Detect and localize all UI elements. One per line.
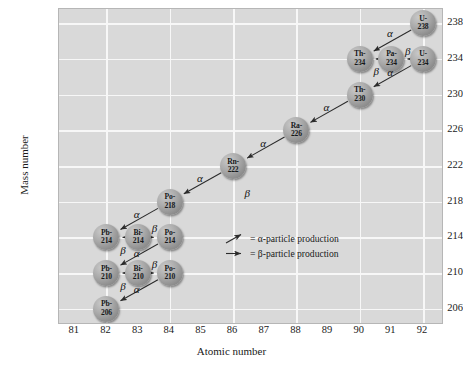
decay-label-alpha-ra-226: α — [260, 137, 266, 149]
nuclide-mass: 234 — [354, 59, 365, 68]
nuclide-mass: 214 — [101, 237, 112, 246]
nuclide-node-po-218[interactable]: Po-218 — [157, 189, 183, 215]
alpha-arrow-icon — [224, 232, 250, 245]
nuclide-mass: 230 — [354, 95, 365, 104]
y-tick-label: 226 — [411, 124, 463, 135]
legend-item-alpha: = α-particle production — [224, 231, 339, 246]
y-axis-title: Mass number — [18, 105, 30, 225]
decay-label-alpha-rn-222: α — [197, 172, 203, 184]
nuclide-node-th-230[interactable]: Th-230 — [347, 82, 373, 108]
nuclide-node-po-210[interactable]: Po-210 — [157, 260, 183, 286]
decay-label-beta-bi-210: β — [152, 258, 157, 270]
decay-label-beta-u-234: β — [405, 45, 410, 57]
nuclide-mass: 214 — [133, 237, 144, 246]
decay-label-beta-bi-210: β — [120, 280, 125, 292]
nuclide-node-rn-222[interactable]: Rn-222 — [220, 153, 246, 179]
legend-label-alpha: = α-particle production — [250, 233, 339, 244]
y-tick-label: 238 — [411, 17, 463, 28]
legend-label-beta: = β-particle production — [250, 248, 339, 259]
gridline-horizontal — [59, 95, 442, 97]
decay-label-alpha-th-230: α — [324, 101, 330, 113]
decay-label-alpha-po-210: α — [134, 283, 140, 295]
nuclide-node-pb-214[interactable]: Pb-214 — [93, 224, 119, 250]
legend: = α-particle production = β-particle pro… — [224, 231, 339, 261]
nuclide-mass: 214 — [164, 237, 175, 246]
nuclide-node-th-234[interactable]: Th-234 — [347, 46, 373, 72]
y-tick-label: 234 — [411, 53, 463, 64]
decay-label-alpha-u-234: α — [387, 66, 393, 78]
nuclide-mass: 210 — [101, 273, 112, 282]
y-tick-label: 230 — [411, 88, 463, 99]
nuclide-mass: 218 — [164, 202, 175, 211]
gridline-horizontal — [59, 202, 442, 204]
floating-decay-label-0: β — [245, 187, 250, 199]
decay-series-chart: U-238Th-234Pa-234U-234Th-230Ra-226Rn-222… — [0, 0, 463, 368]
gridline-horizontal — [59, 23, 442, 25]
decay-label-beta-pa-234: β — [373, 65, 378, 77]
nuclide-mass: 210 — [164, 273, 175, 282]
gridline-horizontal — [59, 166, 442, 168]
nuclide-node-po-214[interactable]: Po-214 — [157, 224, 183, 250]
x-tick-label: 92 — [402, 324, 442, 335]
y-tick-label: 214 — [411, 231, 463, 242]
beta-arrow-icon — [224, 247, 250, 260]
decay-label-alpha-po-218: α — [134, 208, 140, 220]
nuclide-node-pb-206[interactable]: Pb-206 — [93, 296, 119, 322]
y-tick-label: 222 — [411, 160, 463, 171]
nuclide-mass: 226 — [291, 130, 302, 139]
legend-item-beta: = β-particle production — [224, 246, 339, 261]
decay-label-alpha-po-214: α — [134, 247, 140, 259]
nuclide-node-pb-210[interactable]: Pb-210 — [93, 260, 119, 286]
gridline-horizontal — [59, 130, 442, 132]
decay-label-beta-bi-214: β — [120, 244, 125, 256]
decay-label-alpha-u-238: α — [387, 27, 393, 39]
decay-label-beta-bi-214: β — [152, 222, 157, 234]
y-tick-label: 210 — [411, 267, 463, 278]
plot-area: U-238Th-234Pa-234U-234Th-230Ra-226Rn-222… — [58, 8, 443, 324]
y-tick-label: 218 — [411, 195, 463, 206]
nuclide-mass: 206 — [101, 309, 112, 318]
nuclide-mass: 222 — [228, 166, 239, 175]
nuclide-mass: 210 — [133, 273, 144, 282]
x-axis-title: Atomic number — [0, 345, 463, 357]
y-tick-label: 206 — [411, 302, 463, 313]
nuclide-node-ra-226[interactable]: Ra-226 — [283, 117, 309, 143]
